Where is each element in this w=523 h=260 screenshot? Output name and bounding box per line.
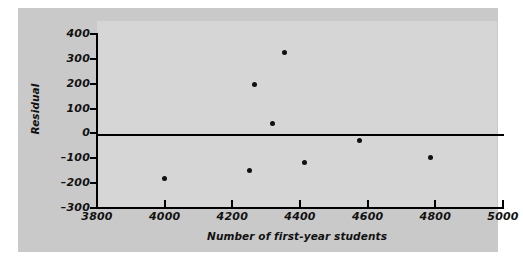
zero-reference-line [96, 134, 504, 136]
x-tick-mark [367, 200, 369, 208]
y-tick-mark [90, 58, 97, 60]
y-tick-label: –100 [36, 152, 90, 163]
y-tick-label: 400 [36, 28, 90, 39]
x-tick-mark [502, 200, 504, 208]
y-tick-mark [90, 83, 97, 85]
x-tick-mark [231, 200, 233, 208]
y-tick-label: –200 [36, 177, 90, 188]
y-tick-label: 300 [36, 53, 90, 64]
plot-area-background [97, 21, 497, 208]
y-tick-label: 0 [36, 127, 90, 138]
data-point [270, 121, 275, 126]
x-tick-mark [434, 200, 436, 208]
x-axis-title: Number of first-year students [97, 230, 497, 242]
x-tick-label: 4800 [405, 211, 465, 223]
x-tick-mark [96, 200, 98, 208]
y-tick-mark [90, 108, 97, 110]
y-tick-mark [90, 157, 97, 159]
y-tick-mark [90, 33, 97, 35]
figure-panel: 4003002001000–100–200–300 38004000420044… [18, 8, 498, 252]
y-tick-mark [90, 182, 97, 184]
x-tick-label: 4200 [202, 211, 262, 223]
y-tick-label: 200 [36, 78, 90, 89]
x-tick-mark [164, 200, 166, 208]
data-point [247, 168, 252, 173]
y-tick-label: 100 [36, 103, 90, 114]
data-point [282, 50, 287, 55]
x-tick-label: 5000 [473, 211, 523, 223]
data-point [162, 176, 167, 181]
y-axis-title: Residual [29, 64, 41, 154]
x-tick-label: 4600 [338, 211, 398, 223]
y-tick-mark [90, 132, 97, 134]
x-tick-label: 3800 [67, 211, 127, 223]
x-tick-label: 4000 [135, 211, 195, 223]
data-point [302, 160, 307, 165]
data-point [357, 138, 362, 143]
x-tick-mark [299, 200, 301, 208]
x-tick-label: 4400 [270, 211, 330, 223]
